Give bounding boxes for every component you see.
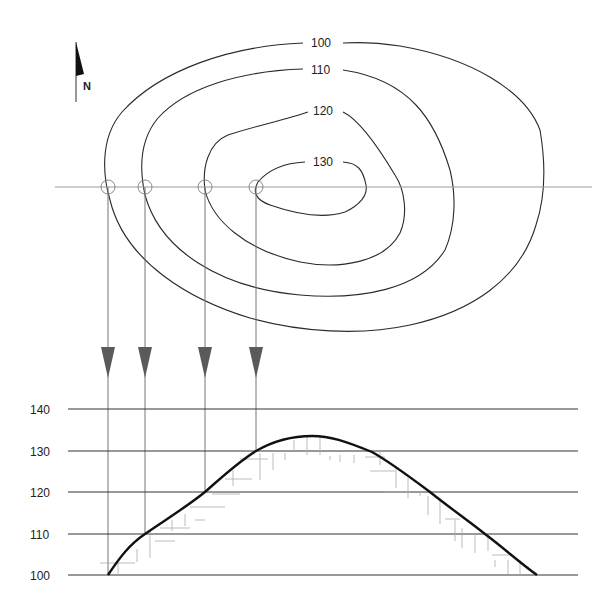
projection-lines — [108, 187, 256, 575]
elevation-label-140: 140 — [30, 403, 50, 417]
elevation-label-130: 130 — [30, 445, 50, 459]
north-label: N — [83, 80, 91, 92]
down-arrow-icon — [249, 347, 263, 378]
elevation-labels: 140 130 120 110 100 — [30, 403, 50, 583]
north-arrow-icon: N — [76, 42, 91, 102]
down-arrow-icon — [101, 347, 115, 378]
topographic-profile-diagram: N 100 110 120 130 — [0, 0, 614, 605]
contour-110 — [142, 69, 454, 296]
elevation-label-110: 110 — [30, 528, 49, 542]
contour-label-120: 120 — [313, 104, 333, 118]
down-arrow-icon — [198, 347, 212, 378]
elevation-profile-curve — [108, 436, 537, 575]
contour-label-110: 110 — [311, 63, 330, 77]
elevation-label-100: 100 — [30, 569, 50, 583]
contour-labels: 100 110 120 130 — [311, 36, 333, 169]
elevation-label-120: 120 — [30, 486, 50, 500]
contour-label-100: 100 — [311, 36, 331, 50]
contour-label-130: 130 — [313, 155, 333, 169]
down-arrow-icon — [138, 347, 152, 378]
contour-120 — [204, 112, 404, 265]
projection-arrows — [101, 347, 263, 378]
profile-hatching — [100, 437, 520, 575]
contour-130 — [255, 162, 366, 215]
